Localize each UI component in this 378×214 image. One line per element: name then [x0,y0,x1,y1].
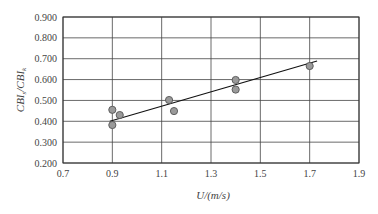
y-tick-label: 0.400 [35,116,58,127]
y-tick-label: 0.600 [35,74,58,85]
data-point [109,106,116,113]
x-axis-ticks: 0.70.91.11.31.51.71.9 [57,168,366,179]
x-tick-label: 1.3 [205,168,218,179]
x-tick-label: 0.9 [106,168,119,179]
scatter-chart: 0.2000.3000.4000.5000.6000.7000.8000.900… [0,0,378,214]
x-tick-label: 1.5 [254,168,267,179]
y-tick-label: 0.900 [35,12,58,23]
data-point [116,111,123,118]
y-tick-label: 0.500 [35,95,58,106]
data-point [170,107,177,114]
y-axis-ticks: 0.2000.3000.4000.5000.6000.7000.8000.900 [35,12,58,169]
fit-line [110,61,317,121]
y-tick-label: 0.800 [35,32,58,43]
y-axis-label: CBIs/CBIk [14,67,28,112]
y-tick-label: 0.300 [35,137,58,148]
data-point [109,121,116,128]
y-tick-label: 0.200 [35,158,58,169]
x-tick-label: 0.7 [57,168,70,179]
x-tick-label: 1.7 [303,168,316,179]
x-tick-label: 1.1 [155,168,168,179]
data-point [306,62,313,69]
x-axis-label: U/(m/s) [196,189,230,202]
x-tick-label: 1.9 [353,168,366,179]
y-tick-label: 0.700 [35,53,58,64]
data-point [232,76,239,83]
grid-lines [63,17,359,163]
data-point [232,86,239,93]
data-point [165,96,172,103]
trend-line [110,61,317,121]
